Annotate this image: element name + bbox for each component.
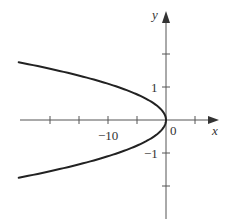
origin-label: 0 xyxy=(170,123,177,138)
y-axis-label: y xyxy=(150,7,158,22)
y-tick-label-neg1: −1 xyxy=(144,146,158,161)
y-tick-label-1: 1 xyxy=(151,80,158,95)
plot-area: y x 0 −10 1 −1 xyxy=(0,0,232,219)
x-axis-label: x xyxy=(211,123,218,138)
chart: y x 0 −10 1 −1 xyxy=(0,0,232,219)
x-tick-label-neg10: −10 xyxy=(98,128,118,143)
y-axis-arrow-icon xyxy=(162,11,170,23)
